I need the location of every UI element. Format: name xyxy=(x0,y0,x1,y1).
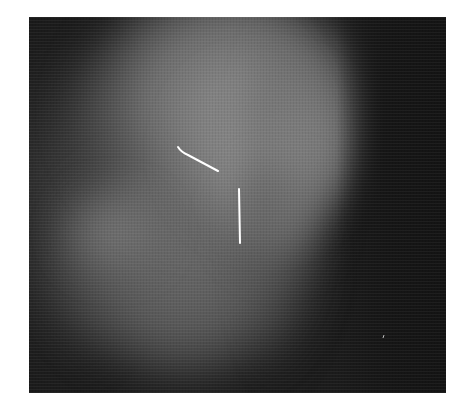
curved-line-marker xyxy=(178,147,218,171)
annotation-markers xyxy=(0,0,462,413)
speck-marker xyxy=(383,335,384,338)
vertical-line-marker xyxy=(239,189,240,243)
